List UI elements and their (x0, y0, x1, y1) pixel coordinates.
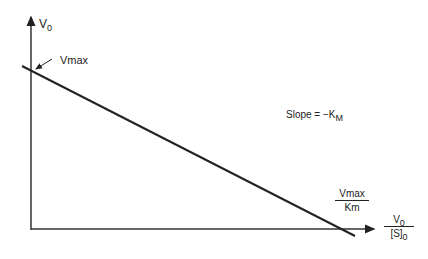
y-axis-label-main: V (39, 17, 47, 31)
x-axis-label-numerator: V0 (384, 214, 414, 227)
x-axis-label: V0 [S]0 (384, 214, 414, 239)
slope-label-sub: M (335, 113, 343, 123)
slope-label: Slope = −KM (286, 110, 343, 120)
slope-label-main: Slope = −K (286, 109, 335, 120)
x-intercept-label: Vmax Km (335, 188, 369, 213)
vmax-pointer-arrow (36, 59, 52, 69)
y-axis-label: V0 (39, 18, 52, 30)
x-den-main: [S] (390, 228, 402, 239)
data-line (22, 66, 355, 236)
x-intercept-numerator: Vmax (335, 188, 369, 201)
x-num-main: V (393, 214, 400, 225)
x-axis-label-denominator: [S]0 (384, 227, 414, 239)
y-axis-label-sub: 0 (47, 23, 52, 33)
diagram-canvas (0, 0, 428, 259)
x-num-sub: 0 (400, 218, 405, 228)
x-intercept-denominator: Km (335, 201, 369, 213)
y-intercept-label: Vmax (60, 55, 88, 66)
x-den-sub: 0 (403, 232, 408, 242)
